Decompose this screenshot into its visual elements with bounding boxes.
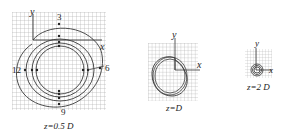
panel-2: y x z=D — [148, 29, 202, 113]
panel-caption: z=2 D — [246, 82, 270, 92]
x-axis-label: x — [196, 59, 202, 70]
x-axis-label: x — [99, 41, 105, 52]
marker-label-right: 6 — [105, 63, 110, 73]
figure: y x 3 6 9 12 z=0.5 D y x z=D y x z=2 D — [0, 0, 289, 137]
marker-label-top: 3 — [57, 12, 62, 22]
panel-1: y x 3 6 9 12 z=0.5 D — [12, 6, 110, 131]
panel-caption: z=D — [165, 103, 183, 113]
grid — [12, 12, 106, 110]
x-axis-label: x — [268, 65, 273, 75]
y-axis-label: y — [29, 6, 35, 17]
y-axis-label: y — [254, 38, 259, 48]
marker-label-bottom: 9 — [61, 107, 66, 117]
y-axis-label: y — [171, 29, 177, 40]
marker-label-left: 12 — [12, 65, 21, 75]
panel-3: y x z=2 D — [245, 38, 273, 92]
panel-caption: z=0.5 D — [43, 121, 74, 131]
grid — [245, 49, 272, 78]
